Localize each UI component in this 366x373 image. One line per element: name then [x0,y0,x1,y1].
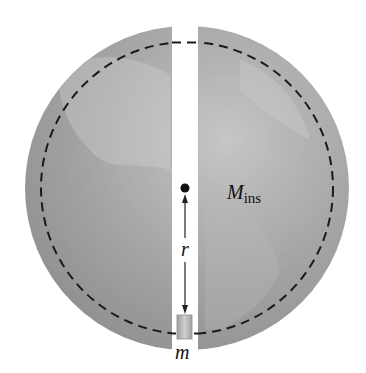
radius-label: r [181,238,189,260]
center-dot [181,184,190,193]
mass-inside-main: M [226,181,245,203]
mass-inside-subscript: ins [244,190,262,206]
earth-tunnel-diagram: r m Mins [0,0,366,373]
mass-label: m [175,341,189,363]
mass-block [177,315,192,339]
